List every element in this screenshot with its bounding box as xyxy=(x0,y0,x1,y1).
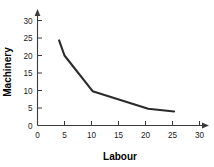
y-tick-label: 20 xyxy=(23,52,33,61)
x-tick-label: 5 xyxy=(62,131,67,140)
x-tick-label: 15 xyxy=(114,131,124,140)
y-axis-title: Machinery xyxy=(2,47,13,97)
y-axis-arrowhead xyxy=(35,9,41,16)
y-tick-label: 15 xyxy=(23,69,33,78)
y-axis-ticks: 051015202530 xyxy=(23,17,42,131)
x-tick-label: 30 xyxy=(195,131,205,140)
x-axis-title: Labour xyxy=(103,151,137,162)
y-tick-label: 10 xyxy=(23,87,33,96)
x-tick-label: 10 xyxy=(87,131,97,140)
x-axis-group xyxy=(38,123,210,129)
y-tick-label: 30 xyxy=(23,17,33,26)
machinery-labour-curve xyxy=(59,40,174,111)
x-tick-label: 0 xyxy=(35,131,40,140)
x-axis-arrowhead xyxy=(202,123,209,129)
x-axis-ticks: 051015202530 xyxy=(35,121,204,140)
y-tick-label: 0 xyxy=(28,122,33,131)
isoquant-line-chart: 051015202530 051015202530 Labour Machine… xyxy=(0,0,214,167)
x-tick-label: 25 xyxy=(168,131,178,140)
y-tick-label: 25 xyxy=(23,34,33,43)
y-tick-label: 5 xyxy=(28,104,33,113)
chart-container: 051015202530 051015202530 Labour Machine… xyxy=(0,0,214,167)
x-tick-label: 20 xyxy=(141,131,151,140)
